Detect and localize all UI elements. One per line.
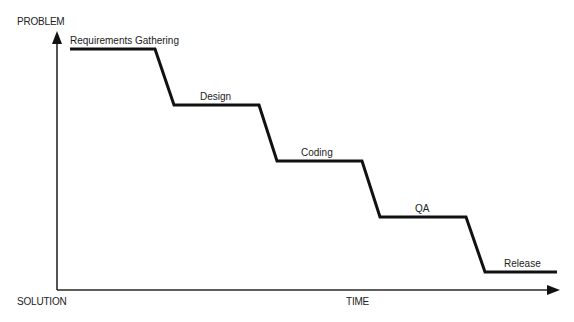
stage-label-requirements: Requirements Gathering bbox=[70, 36, 179, 46]
stage-label-qa: QA bbox=[415, 204, 429, 214]
stage-label-coding: Coding bbox=[301, 148, 333, 158]
y-axis-arrow-icon bbox=[52, 31, 62, 44]
stage-label-release: Release bbox=[504, 259, 541, 269]
stage-step-line bbox=[70, 49, 557, 272]
y-axis-bottom-label: SOLUTION bbox=[17, 297, 67, 307]
y-axis-top-label: PROBLEM bbox=[17, 17, 65, 27]
x-axis-label: TIME bbox=[346, 297, 369, 307]
process-diagram bbox=[0, 0, 574, 322]
x-axis-arrow-icon bbox=[547, 285, 560, 295]
stage-label-design: Design bbox=[200, 92, 231, 102]
